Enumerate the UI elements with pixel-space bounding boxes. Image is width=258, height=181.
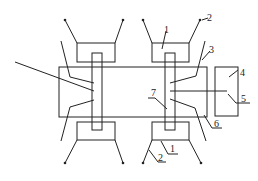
right-bottom-block	[152, 122, 189, 140]
left-bottom-leg-left	[65, 140, 77, 163]
left-module	[15, 19, 124, 165]
label-3: 3	[209, 44, 214, 55]
left-top-leg-left	[65, 20, 77, 43]
label-1-bottom: 1	[170, 143, 175, 154]
label-2-top: 2	[207, 12, 212, 23]
label-4: 4	[240, 67, 245, 78]
label-7: 7	[151, 87, 156, 98]
left-shaft	[92, 53, 102, 130]
right-bottom-leg-right	[189, 140, 201, 163]
mechanism-diagram: 1 2 3 4 5 6 7 1 2	[0, 0, 258, 181]
right-top-leg-left	[143, 20, 152, 43]
main-body	[59, 67, 207, 117]
left-bottom-block	[77, 122, 115, 140]
label-2-bottom: 2	[158, 152, 163, 163]
left-bottom-leg-right	[115, 140, 123, 163]
label-1-top: 1	[164, 24, 169, 35]
left-input-line	[15, 62, 94, 91]
right-top-leg-right	[189, 20, 200, 43]
label-6: 6	[214, 118, 219, 129]
label-5: 5	[241, 93, 246, 104]
left-top-leg-right	[115, 20, 123, 43]
